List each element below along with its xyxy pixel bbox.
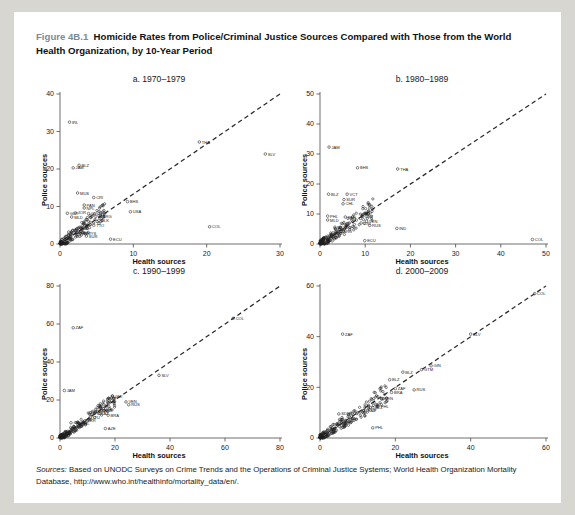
svg-text:BLZ: BLZ bbox=[405, 370, 413, 375]
svg-text:IRL: IRL bbox=[72, 120, 79, 125]
svg-text:MUS: MUS bbox=[80, 191, 89, 196]
panel-c-x-axis-label: Health sources bbox=[30, 451, 288, 460]
svg-text:20: 20 bbox=[111, 444, 119, 451]
figure-page: Figure 4B.1 Homicide Rates from Police/C… bbox=[14, 12, 561, 503]
svg-text:20: 20 bbox=[407, 250, 415, 257]
svg-text:0: 0 bbox=[50, 434, 54, 441]
svg-text:BLZ: BLZ bbox=[375, 405, 383, 410]
sources-note: Sources: Based on UNODC Surveys on Crime… bbox=[36, 464, 541, 488]
svg-text:20: 20 bbox=[46, 165, 54, 172]
svg-text:40: 40 bbox=[46, 358, 54, 365]
svg-text:BLZ: BLZ bbox=[331, 192, 339, 197]
svg-text:BRA: BRA bbox=[111, 413, 120, 418]
svg-text:60: 60 bbox=[221, 444, 229, 451]
svg-text:MLD: MLD bbox=[74, 215, 83, 220]
svg-text:10: 10 bbox=[129, 250, 137, 257]
svg-text:IND: IND bbox=[399, 226, 406, 231]
svg-text:USA: USA bbox=[133, 209, 142, 214]
svg-text:0: 0 bbox=[310, 434, 314, 441]
svg-text:ZAF: ZAF bbox=[76, 325, 84, 330]
figure-number: Figure 4B.1 bbox=[36, 31, 88, 42]
panel-b-x-axis-label: Health sources bbox=[290, 257, 554, 266]
svg-text:COL: COL bbox=[535, 237, 544, 242]
svg-text:BRA: BRA bbox=[394, 390, 403, 395]
svg-text:BHS: BHS bbox=[360, 165, 369, 170]
svg-text:40: 40 bbox=[166, 444, 174, 451]
svg-text:BHS: BHS bbox=[130, 199, 139, 204]
svg-text:40: 40 bbox=[46, 90, 54, 97]
svg-text:60: 60 bbox=[46, 320, 54, 327]
svg-text:40: 40 bbox=[306, 120, 314, 127]
panel-d-plot: Police sources 02040600204060COLZAFSLVGI… bbox=[290, 266, 554, 459]
svg-text:20: 20 bbox=[203, 250, 211, 257]
svg-text:0: 0 bbox=[318, 444, 322, 451]
svg-text:BLZ: BLZ bbox=[392, 377, 400, 382]
svg-text:THA: THA bbox=[400, 167, 408, 172]
svg-text:GMI: GMI bbox=[115, 394, 123, 399]
svg-text:0: 0 bbox=[50, 240, 54, 247]
svg-text:30: 30 bbox=[306, 150, 314, 157]
svg-text:10: 10 bbox=[46, 203, 54, 210]
panel-c-1990-1999: c. 1990–1999 Police sources 020406080020… bbox=[30, 266, 288, 459]
svg-text:0: 0 bbox=[58, 444, 62, 451]
svg-text:SLV: SLV bbox=[268, 152, 276, 157]
svg-text:30: 30 bbox=[46, 128, 54, 135]
svg-text:50: 50 bbox=[306, 90, 314, 97]
svg-text:80: 80 bbox=[46, 282, 54, 289]
sources-label: Sources: bbox=[36, 465, 67, 474]
svg-text:VEN: VEN bbox=[385, 396, 393, 401]
panel-a-plot: Police sources 0102030400102030IRLBLZJAM… bbox=[30, 74, 288, 264]
svg-text:TTO: TTO bbox=[96, 223, 104, 228]
svg-text:ECU: ECU bbox=[113, 237, 122, 242]
svg-text:KAZ: KAZ bbox=[368, 408, 376, 413]
svg-text:THA: THA bbox=[202, 140, 210, 145]
panel-a-x-axis-label: Health sources bbox=[30, 257, 288, 266]
svg-text:JAM: JAM bbox=[67, 388, 76, 393]
svg-text:CRI: CRI bbox=[364, 221, 371, 226]
svg-text:SLV: SLV bbox=[473, 332, 481, 337]
svg-text:30: 30 bbox=[452, 250, 460, 257]
figure-title: Homicide Rates from Police/Criminal Just… bbox=[36, 31, 511, 56]
svg-text:COL: COL bbox=[212, 224, 221, 229]
svg-text:0: 0 bbox=[58, 250, 62, 257]
panel-b-plot: Police sources 0102030405001020304050JAM… bbox=[290, 74, 554, 264]
svg-text:MYS: MYS bbox=[87, 231, 96, 236]
svg-text:LTU: LTU bbox=[93, 415, 100, 420]
svg-text:20: 20 bbox=[306, 384, 314, 391]
svg-text:GTM: GTM bbox=[424, 367, 434, 372]
svg-text:LTU: LTU bbox=[71, 230, 78, 235]
svg-text:10: 10 bbox=[361, 250, 369, 257]
svg-text:20: 20 bbox=[46, 396, 54, 403]
svg-text:SDN: SDN bbox=[341, 411, 350, 416]
svg-text:ARG: ARG bbox=[343, 229, 352, 234]
panel-d-x-axis-label: Health sources bbox=[290, 451, 554, 460]
svg-text:MLD: MLD bbox=[330, 218, 339, 223]
figure-heading: Figure 4B.1 Homicide Rates from Police/C… bbox=[36, 30, 536, 58]
svg-text:CHL: CHL bbox=[345, 201, 354, 206]
svg-text:20: 20 bbox=[306, 180, 314, 187]
panel-grid: a. 1970–1979 Police sources 010203040010… bbox=[14, 74, 561, 459]
panel-c-plot: Police sources 020406080020406080COLZAFS… bbox=[30, 266, 288, 459]
svg-text:PAN: PAN bbox=[348, 215, 356, 220]
svg-text:JAM: JAM bbox=[76, 165, 85, 170]
svg-text:20: 20 bbox=[391, 444, 399, 451]
svg-text:30: 30 bbox=[276, 250, 284, 257]
svg-text:AZE: AZE bbox=[108, 426, 116, 431]
svg-text:COL: COL bbox=[236, 316, 245, 321]
svg-text:VCT: VCT bbox=[350, 192, 359, 197]
svg-text:60: 60 bbox=[306, 282, 314, 289]
svg-text:PHL: PHL bbox=[82, 421, 91, 426]
svg-text:RUS: RUS bbox=[417, 387, 426, 392]
svg-text:10: 10 bbox=[306, 210, 314, 217]
svg-text:SLV: SLV bbox=[161, 373, 169, 378]
svg-text:RUS: RUS bbox=[372, 223, 381, 228]
svg-text:ECU: ECU bbox=[367, 238, 376, 243]
svg-text:NPL: NPL bbox=[87, 206, 96, 211]
panel-d-2000-2009: d. 2000–2009 Police sources 020406002040… bbox=[290, 266, 554, 459]
svg-text:CRI: CRI bbox=[96, 195, 103, 200]
panel-a-1970-1979: a. 1970–1979 Police sources 010203040010… bbox=[30, 74, 288, 264]
svg-text:0: 0 bbox=[310, 240, 314, 247]
svg-text:40: 40 bbox=[467, 444, 475, 451]
svg-text:JAM: JAM bbox=[331, 145, 340, 150]
svg-text:80: 80 bbox=[276, 444, 284, 451]
